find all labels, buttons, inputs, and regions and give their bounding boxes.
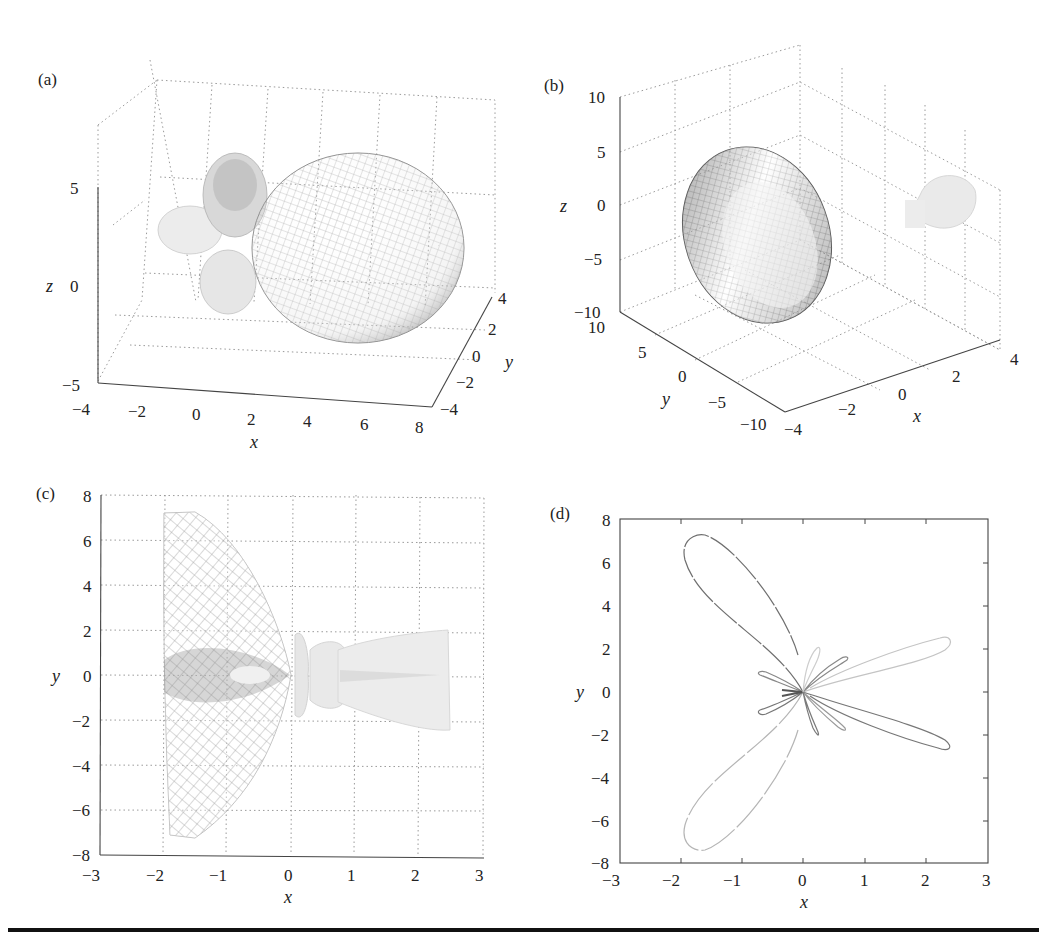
svg-text:1: 1 [860,871,869,890]
svg-text:−4: −4 [72,400,91,419]
svg-text:6: 6 [602,554,611,573]
svg-text:−2: −2 [128,402,146,421]
svg-text:3: 3 [475,866,484,885]
svg-text:−1: −1 [209,866,227,885]
panel-a-z-ticks: 5 0 −5 z [45,179,80,395]
svg-text:8: 8 [415,418,424,437]
panel-a-x-ticks: −4 −2 0 2 4 6 8 x [72,400,424,452]
svg-text:z: z [559,196,567,216]
svg-text:2: 2 [921,871,930,890]
svg-text:4: 4 [602,597,611,616]
panel-c-plot: 8 6 4 2 0 −2 −4 −6 −8 y −3 −2 −1 0 1 2 3… [0,470,520,900]
svg-text:6: 6 [83,532,92,551]
svg-text:−4: −4 [591,769,610,788]
svg-text:3: 3 [982,871,991,890]
svg-text:5: 5 [597,143,606,162]
panel-d-x-ticks: −3 −2 −1 0 1 2 3 x [602,871,991,912]
svg-text:−6: −6 [72,801,90,820]
svg-text:0: 0 [192,405,201,424]
svg-text:2: 2 [602,640,611,659]
svg-text:0: 0 [898,385,907,404]
svg-text:−2: −2 [838,400,856,419]
svg-text:0: 0 [798,871,807,890]
svg-text:5: 5 [70,179,79,198]
svg-text:−5: −5 [584,250,602,269]
panel-d-plot: 8 6 4 2 0 −2 −4 −6 −8 y −3 −2 −1 0 1 2 3… [520,470,1047,900]
svg-text:2: 2 [411,866,420,885]
panel-d: (d) [520,470,1047,900]
svg-text:x: x [283,887,292,907]
panel-b-plot: 10 5 0 −5 −10 z 10 5 0 −5 −10 y −4 −2 0 … [520,60,1047,460]
svg-text:1: 1 [347,866,356,885]
svg-text:2: 2 [488,320,497,339]
svg-text:0: 0 [83,667,92,686]
svg-text:−6: −6 [591,812,609,831]
svg-text:5: 5 [638,343,647,362]
svg-text:−3: −3 [82,866,100,885]
svg-text:8: 8 [602,511,611,530]
panel-a-surface [158,153,464,343]
svg-text:8: 8 [83,487,92,506]
svg-text:0: 0 [597,196,606,215]
panel-b-z-ticks: 10 5 0 −5 −10 z [559,88,606,322]
svg-text:−2: −2 [591,726,609,745]
svg-text:y: y [660,389,670,409]
panel-c-surface [164,512,450,838]
svg-text:4: 4 [303,412,312,431]
svg-text:−1: −1 [723,871,741,890]
svg-text:−3: −3 [602,871,620,890]
svg-text:−4: −4 [784,420,803,439]
svg-text:x: x [912,406,921,426]
svg-text:2: 2 [952,367,961,386]
panel-a-y-ticks: 4 2 0 −2 −4 y [440,289,513,419]
panel-d-y-ticks: 8 6 4 2 0 −2 −4 −6 −8 y [574,511,611,873]
panel-b-x-ticks: −4 −2 0 2 4 x [784,350,1019,439]
svg-text:−5: −5 [708,393,726,412]
svg-text:y: y [503,352,513,372]
svg-text:0: 0 [284,866,293,885]
svg-text:−10: −10 [740,415,767,434]
svg-text:z: z [45,276,53,296]
svg-text:−2: −2 [456,373,474,392]
panel-b-surface [659,126,976,344]
panel-d-pattern [684,535,950,851]
svg-text:x: x [249,432,258,452]
svg-text:−5: −5 [62,376,80,395]
svg-text:y: y [574,682,584,702]
svg-text:10: 10 [588,88,605,107]
svg-text:−4: −4 [72,757,91,776]
svg-text:−2: −2 [72,712,90,731]
svg-text:−2: −2 [146,866,164,885]
panel-b: (b) [520,60,1047,460]
svg-text:0: 0 [678,367,687,386]
svg-text:4: 4 [83,577,92,596]
svg-text:4: 4 [1010,350,1019,369]
svg-text:2: 2 [247,410,256,429]
panel-c-x-ticks: −3 −2 −1 0 1 2 3 x [82,866,484,907]
panel-c-y-ticks: 8 6 4 2 0 −2 −4 −6 −8 y [50,487,92,865]
bottom-rule-divider [8,928,1039,932]
svg-text:−8: −8 [72,846,90,865]
svg-text:6: 6 [360,415,369,434]
svg-text:0: 0 [70,277,79,296]
panel-a: (a) [0,60,520,460]
svg-text:2: 2 [83,622,92,641]
panel-b-y-ticks: 10 5 0 −5 −10 y [588,318,767,434]
svg-text:0: 0 [472,347,481,366]
svg-text:4: 4 [498,289,507,308]
svg-text:10: 10 [588,318,605,337]
svg-text:−4: −4 [440,400,459,419]
svg-text:0: 0 [602,683,611,702]
svg-text:x: x [799,892,808,912]
svg-text:y: y [50,666,60,686]
panel-c: (c) [0,470,520,900]
panel-a-plot: 5 0 −5 z −4 −2 0 2 4 6 8 x 4 2 0 −2 −4 y [0,60,520,460]
svg-text:−2: −2 [662,871,680,890]
